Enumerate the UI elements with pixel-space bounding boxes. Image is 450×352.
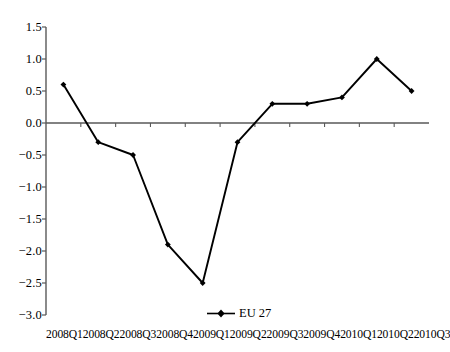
x-axis-tick-label: 2008Q2	[83, 329, 120, 341]
data-point-7	[304, 101, 310, 107]
legend-marker-icon	[206, 308, 236, 319]
x-axis-tick-label: 2008Q4	[156, 329, 193, 341]
x-axis-tick-label: 2009Q4	[303, 329, 340, 341]
legend-label: EU 27	[239, 307, 271, 320]
x-axis-labels: 2008Q12008Q22008Q32008Q42009Q12009Q22009…	[46, 329, 443, 347]
chart-legend: EU 27	[206, 305, 271, 321]
x-axis-tick-label: 2009Q1	[193, 329, 230, 341]
x-axis-tick-label: 2010Q2	[377, 329, 414, 341]
data-point-2	[130, 152, 136, 158]
x-axis-tick-label: 2009Q2	[230, 329, 267, 341]
x-axis-tick-label: 2008Q3	[120, 329, 157, 341]
x-axis-tick-label: 2010Q1	[340, 329, 377, 341]
axes-group	[42, 27, 429, 315]
x-axis-tick-label: 2008Q1	[46, 329, 83, 341]
series-line-0	[63, 59, 411, 283]
data-series-group	[61, 56, 415, 286]
x-axis-tick-label: 2009Q3	[267, 329, 304, 341]
x-axis-tick-label: 2010Q3	[414, 329, 450, 341]
